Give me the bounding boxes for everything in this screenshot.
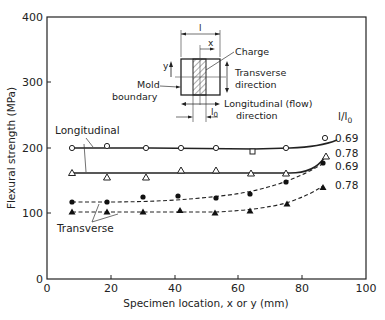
y-tick-label: 400 bbox=[22, 11, 43, 24]
ratio-label: 0.78 bbox=[335, 179, 358, 191]
x-tick-label: 20 bbox=[104, 282, 118, 295]
charge-label: Charge bbox=[235, 46, 269, 57]
mold-label-1: Mold bbox=[137, 79, 160, 90]
y-tick-label: 200 bbox=[22, 142, 43, 155]
x-tick-label: 40 bbox=[168, 282, 182, 295]
longitudinal-direction-label-1: Longitudinal (flow) bbox=[224, 98, 313, 109]
x-tick-label: 60 bbox=[231, 282, 245, 295]
inset-y-label: y bbox=[163, 61, 169, 71]
series-transverse-069 bbox=[69, 160, 325, 204]
chart: 0 20 40 60 80 100 0 100 200 300 400 Spec… bbox=[0, 0, 385, 320]
x-tick-label: 100 bbox=[356, 282, 377, 295]
inset-x-label: x bbox=[208, 38, 214, 48]
ratio-label: 0.69 bbox=[335, 160, 358, 172]
inset-l-label: l bbox=[199, 23, 202, 33]
transverse-label: Transverse bbox=[56, 222, 114, 234]
x-axis-title: Specimen location, x or y (mm) bbox=[123, 297, 288, 309]
ratio-label: 0.69 bbox=[335, 132, 358, 144]
transverse-direction-label-1: Transverse bbox=[234, 67, 286, 78]
transverse-direction-label-2: direction bbox=[235, 79, 277, 90]
series-longitudinal-069 bbox=[69, 135, 337, 154]
series-longitudinal-078 bbox=[69, 153, 330, 180]
mold-label-2: boundary bbox=[112, 91, 158, 102]
y-tick-label: 100 bbox=[22, 207, 43, 220]
longitudinal-label: Longitudinal bbox=[55, 124, 120, 136]
x-tick-label: 80 bbox=[295, 282, 309, 295]
y-tick-label: 0 bbox=[36, 273, 43, 286]
ratio-header: l/l0 bbox=[338, 110, 352, 125]
y-axis-title: Flexural strength (MPa) bbox=[5, 87, 17, 209]
longitudinal-leaders bbox=[84, 138, 93, 172]
inset-diagram: l x y Mold boundary Charge Transverse di… bbox=[112, 23, 313, 122]
y-tick-label: 300 bbox=[22, 76, 43, 89]
longitudinal-direction-label-2: direction bbox=[236, 110, 278, 121]
ratio-label: 0.78 bbox=[335, 147, 358, 159]
x-tick-label: 0 bbox=[44, 282, 51, 295]
